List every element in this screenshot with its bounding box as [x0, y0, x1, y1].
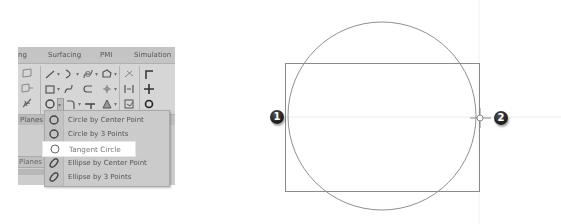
crosshair-cursor-icon	[470, 108, 491, 128]
step-marker-2: 2	[494, 111, 508, 125]
step-marker-1: 1	[270, 110, 284, 124]
sketch-canvas[interactable]: 1 2	[0, 0, 561, 224]
sketch-rectangle[interactable]	[286, 64, 480, 192]
tangent-circle[interactable]	[288, 22, 476, 210]
